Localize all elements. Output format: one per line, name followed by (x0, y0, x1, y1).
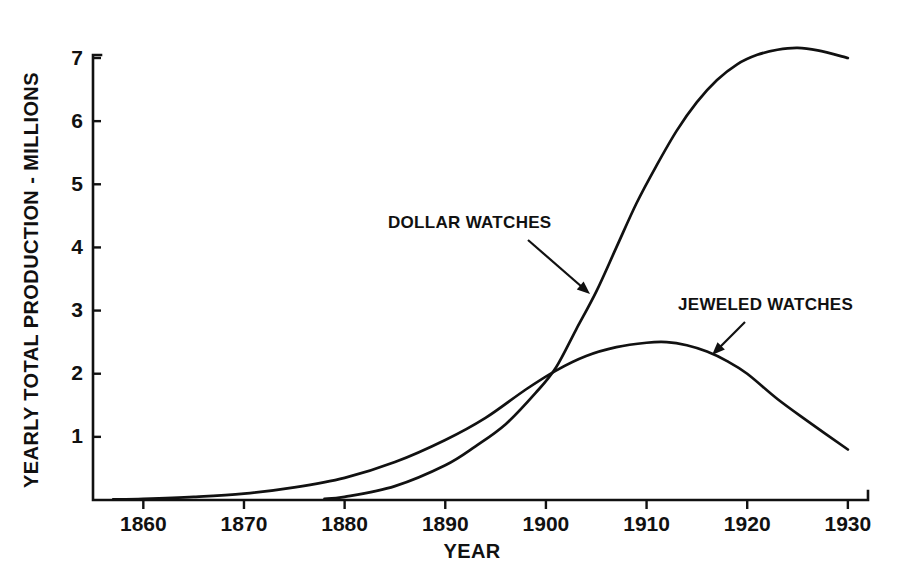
series-curve-dollar-watches (324, 48, 847, 499)
y-tick-label: 2 (71, 361, 83, 384)
watch-production-line-chart: 1234567 18601870188018901900191019201930… (0, 0, 910, 580)
axis-spine (93, 55, 868, 500)
x-tick-label: 1930 (825, 512, 872, 535)
series-label-jeweled-watches: JEWELED WATCHES (678, 295, 853, 314)
series-curve-jeweled-watches (113, 342, 848, 499)
x-tick-label: 1920 (724, 512, 771, 535)
chart-series (113, 48, 848, 499)
x-axis-tick-labels: 18601870188018901900191019201930 (120, 512, 871, 535)
y-tick-label: 3 (71, 298, 83, 321)
x-tick-label: 1880 (321, 512, 368, 535)
x-axis-title: YEAR (443, 540, 500, 562)
chart-axes (93, 55, 868, 500)
chart-annotations: DOLLAR WATCHESJEWELED WATCHES (388, 213, 853, 355)
y-tick-label: 1 (71, 424, 83, 447)
y-tick-label: 7 (71, 46, 83, 69)
x-axis-ticks (143, 500, 848, 509)
chart-figure: 1234567 18601870188018901900191019201930… (0, 0, 910, 580)
annotation-arrow-shaft (528, 240, 582, 287)
x-tick-label: 1870 (221, 512, 268, 535)
annotation-arrow-shaft (720, 322, 745, 347)
x-tick-label: 1860 (120, 512, 167, 535)
x-tick-label: 1900 (523, 512, 570, 535)
series-label-dollar-watches: DOLLAR WATCHES (388, 213, 551, 232)
y-tick-label: 4 (71, 235, 83, 258)
y-axis-title: YEARLY TOTAL PRODUCTION - MILLIONS (20, 72, 42, 488)
y-tick-label: 5 (71, 172, 83, 195)
x-tick-label: 1890 (422, 512, 469, 535)
y-axis-tick-labels: 1234567 (71, 46, 83, 448)
x-tick-label: 1910 (623, 512, 670, 535)
y-tick-label: 6 (71, 109, 83, 132)
